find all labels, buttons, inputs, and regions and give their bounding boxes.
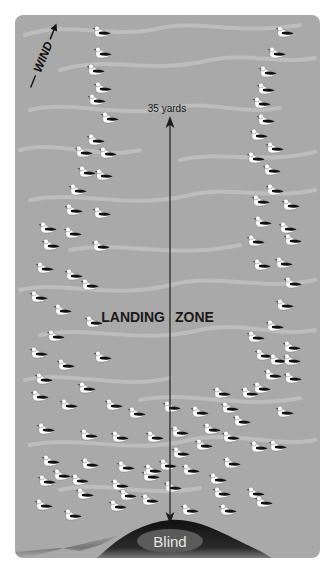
blind-label: Blind xyxy=(153,533,186,550)
landing-zone-label-left: LANDING xyxy=(101,309,165,325)
distance-label: 35 yards xyxy=(148,103,186,114)
landing-zone-label-right: ZONE xyxy=(175,309,214,325)
water-panel xyxy=(15,15,320,560)
decoy-spread-diagram: 35 yards LANDING ZONE Blind WIND xyxy=(0,0,333,573)
